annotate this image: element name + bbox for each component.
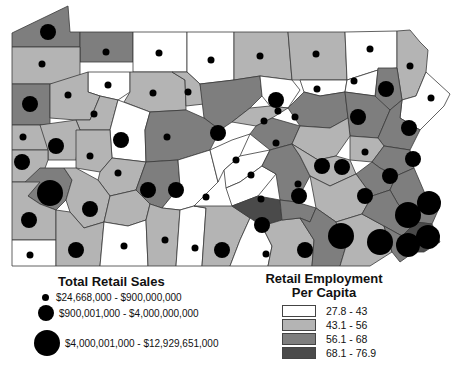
symbol-somerset (121, 243, 128, 250)
legend-employment-label: 68.1 - 76.9 (326, 347, 376, 359)
symbol-lackawanna (378, 81, 394, 97)
symbol-bucks (417, 191, 441, 215)
symbol-beaver (14, 154, 30, 170)
symbol-snyder (273, 140, 280, 147)
symbol-huntingdon (203, 194, 210, 201)
symbol-pike (428, 95, 435, 102)
legend-employment-title-line2: Per Capita (262, 286, 386, 300)
legend-employment-item: 56.1 - 68 (282, 333, 367, 345)
legend-employment-label: 43.1 - 56 (326, 319, 367, 331)
symbol-warren (103, 49, 110, 56)
symbol-northumberland (314, 158, 330, 174)
symbol-philadelphia (416, 225, 440, 249)
legend-sales-label: $4,000,001,000 - $12,929,651,000 (65, 338, 218, 349)
symbol-juniata (248, 172, 255, 179)
legend-sales-item-small: $24,668,000 - $900,000,000 (42, 292, 182, 303)
symbol-washington (21, 212, 37, 228)
symbol-sullivan (314, 86, 321, 93)
symbol-carbon (362, 149, 369, 156)
county-warren (80, 32, 133, 62)
swatch-class2 (282, 319, 316, 331)
symbol-berks (357, 188, 373, 204)
symbol-forest (105, 82, 112, 89)
symbol-centre (210, 125, 226, 141)
medium-circle-icon (38, 305, 54, 321)
symbol-bradford (313, 51, 320, 58)
symbol-perry (258, 196, 265, 203)
large-circle-icon (34, 330, 60, 356)
symbol-dauphin (291, 188, 307, 204)
symbol-lycoming (268, 92, 284, 108)
legend-employment-title: Retail Employment Per Capita (262, 272, 386, 300)
symbol-mckean (156, 50, 163, 57)
legend-sales-title: Total Retail Sales (58, 274, 165, 289)
swatch-class1 (282, 305, 316, 317)
symbol-potter (208, 57, 215, 64)
symbol-monroe (401, 120, 417, 136)
symbol-allegheny (37, 180, 63, 206)
symbol-jefferson (91, 111, 98, 118)
symbol-schuylkill (334, 159, 350, 175)
symbol-westmoreland (82, 201, 98, 217)
symbol-mifflin (233, 157, 240, 164)
symbol-cambria (140, 182, 156, 198)
legend-employment-label: 27.8 - 43 (326, 305, 367, 317)
symbol-tioga (257, 53, 264, 60)
symbol-lawrence (20, 134, 27, 141)
symbol-butler (48, 138, 64, 154)
symbol-lancaster (328, 223, 354, 249)
county-greene (12, 240, 56, 266)
legend-employment-item: 68.1 - 76.9 (282, 347, 376, 359)
symbol-erie (40, 24, 56, 40)
symbol-franklin (214, 242, 230, 258)
county-fulton (176, 206, 206, 266)
symbol-montour (275, 108, 282, 115)
symbol-indiana (115, 170, 122, 177)
symbol-lehigh (382, 168, 398, 184)
symbol-york (297, 242, 313, 258)
symbol-venango (65, 92, 72, 99)
symbol-union (261, 118, 268, 125)
symbol-lebanon (295, 181, 302, 188)
symbol-wyoming (351, 78, 358, 85)
symbol-northampton (405, 151, 421, 167)
symbol-elk (150, 90, 157, 97)
legend-employment-item: 27.8 - 43 (282, 305, 367, 317)
legend-sales-label: $900,001,000 - $4,000,000,000 (59, 308, 199, 319)
legend-sales-item-medium: $900,001,000 - $4,000,000,000 (38, 305, 199, 321)
small-circle-icon (42, 294, 49, 301)
symbol-cameron (185, 89, 192, 96)
symbol-armstrong (87, 153, 94, 160)
swatch-class4 (282, 347, 316, 359)
symbol-mercer (22, 96, 38, 112)
symbol-columbia (292, 114, 299, 121)
symbol-wayne (407, 63, 414, 70)
symbol-greene (27, 252, 34, 259)
legend-employment-item: 43.1 - 56 (282, 319, 367, 331)
symbol-blair (168, 182, 184, 198)
symbol-fulton (192, 245, 199, 252)
choropleth-map (0, 0, 464, 270)
legend-employment-label: 56.1 - 68 (326, 333, 367, 345)
symbol-crawford (39, 61, 46, 68)
county-bedford (146, 204, 180, 266)
legend-employment-title-line1: Retail Employment (262, 272, 386, 286)
symbol-clinton (164, 134, 171, 141)
legend-sales-label: $24,668,000 - $900,000,000 (56, 292, 182, 303)
county-polygons (12, 6, 450, 266)
swatch-class3 (282, 333, 316, 345)
symbol-susquehanna (367, 46, 374, 53)
symbol-clearfield (113, 132, 129, 148)
legend-sales-item-large: $4,000,001,000 - $12,929,651,000 (34, 330, 218, 356)
symbol-adams (263, 251, 270, 258)
symbol-fayette (68, 242, 84, 258)
symbol-bedford (162, 237, 169, 244)
symbol-cumberland (254, 217, 270, 233)
symbol-chester (367, 229, 393, 255)
symbol-luzerne (350, 109, 366, 125)
symbol-montgomery (395, 202, 421, 228)
